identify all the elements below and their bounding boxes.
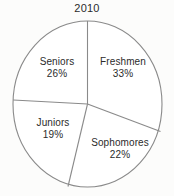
pie-chart-svg [0,0,174,196]
slice-label-seniors: Seniors 26% [28,56,86,79]
slice-label-juniors: Juniors 19% [24,117,82,140]
slice-value-seniors: 26% [28,68,86,80]
pie-chart-figure: 2010 Freshmen 33% Seniors 26% Juniors 19… [0,0,174,196]
slice-value-sophomores: 22% [78,149,162,161]
slice-value-freshmen: 33% [92,68,154,80]
slice-name-juniors: Juniors [37,117,70,128]
slice-label-freshmen: Freshmen 33% [92,56,154,79]
slice-name-freshmen: Freshmen [100,56,146,67]
slice-name-seniors: Seniors [40,56,75,67]
slice-value-juniors: 19% [24,129,82,141]
slice-label-sophomores: Sophomores 22% [78,137,162,160]
slice-name-sophomores: Sophomores [91,137,149,148]
